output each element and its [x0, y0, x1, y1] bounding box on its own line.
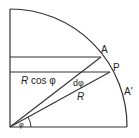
label-r-cos-phi: R cos φ [21, 75, 56, 86]
quarter-circle-diagram: A P A' R cos φ dφ R φ [0, 0, 139, 138]
quarter-arc [10, 9, 127, 127]
label-r-cos-phi-r: R [21, 75, 28, 86]
label-angle-phi: φ [19, 121, 24, 129]
label-r-cos-phi-rest: cos φ [28, 75, 56, 86]
label-point-a-prime: A' [124, 86, 133, 97]
label-radius: R [77, 91, 84, 102]
label-point-a: A [101, 44, 108, 55]
label-point-p: P [113, 62, 120, 73]
angle-arc [28, 117, 31, 127]
label-d-phi: dφ [73, 78, 84, 88]
radius-line-a [10, 57, 101, 127]
